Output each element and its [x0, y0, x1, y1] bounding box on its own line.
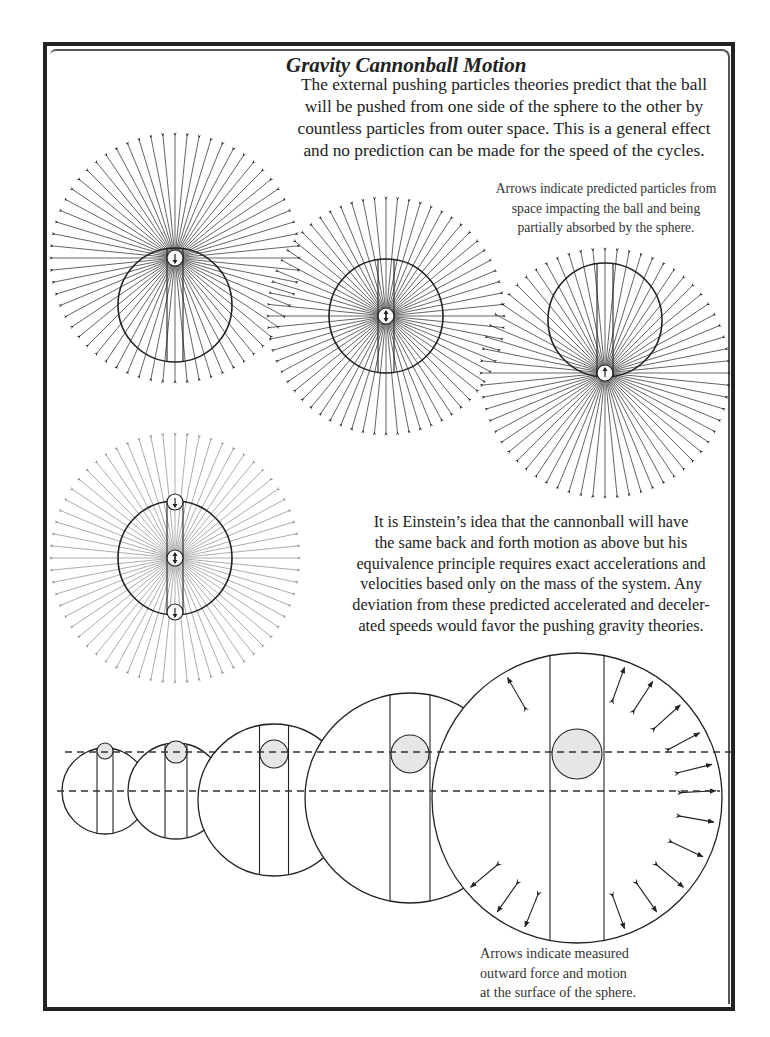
measured-force-caption: Arrows indicate measured outward force a… [480, 944, 680, 1003]
ball-center-diagram [268, 198, 504, 434]
einstein-caption: It is Einstein’s idea that the cannonbal… [330, 512, 732, 637]
ball-bottom-diagram [481, 249, 729, 497]
predicted-particles-caption: Arrows indicate predicted particles from… [472, 179, 740, 238]
growth-spheres [57, 653, 733, 943]
intro-paragraph: The external pushing particles theories … [280, 74, 728, 162]
intro-line: will be pushed from one side of the sphe… [280, 96, 728, 118]
intro-line: countless particles from outer space. Th… [280, 118, 728, 140]
caption-line: space impacting the ball and being [472, 199, 740, 219]
caption-line: at the surface of the sphere. [480, 983, 680, 1003]
caption-line: velocities based only on the mass of the… [330, 574, 732, 595]
einstein-diagram [51, 434, 299, 682]
caption-line: partially absorbed by the sphere. [472, 218, 740, 238]
growth-sphere [432, 653, 722, 943]
caption-line: It is Einstein’s idea that the cannonbal… [330, 512, 732, 533]
caption-line: Arrows indicate predicted particles from [472, 179, 740, 199]
caption-line: ated speeds would favor the pushing grav… [330, 616, 732, 637]
cannonball [391, 735, 429, 773]
caption-line: Arrows indicate measured [480, 944, 680, 964]
cannonball [552, 729, 602, 779]
ball-top-diagram [51, 134, 299, 382]
caption-line: the same back and forth motion as above … [330, 533, 732, 554]
intro-line: The external pushing particles theories … [280, 74, 728, 96]
intro-line: and no prediction can be made for the sp… [280, 140, 728, 162]
caption-line: deviation from these predicted accelerat… [330, 595, 732, 616]
cannonball [260, 740, 288, 768]
cannonball [97, 743, 113, 759]
caption-line: equivalence principle requires exact acc… [330, 554, 732, 575]
caption-line: outward force and motion [480, 964, 680, 984]
